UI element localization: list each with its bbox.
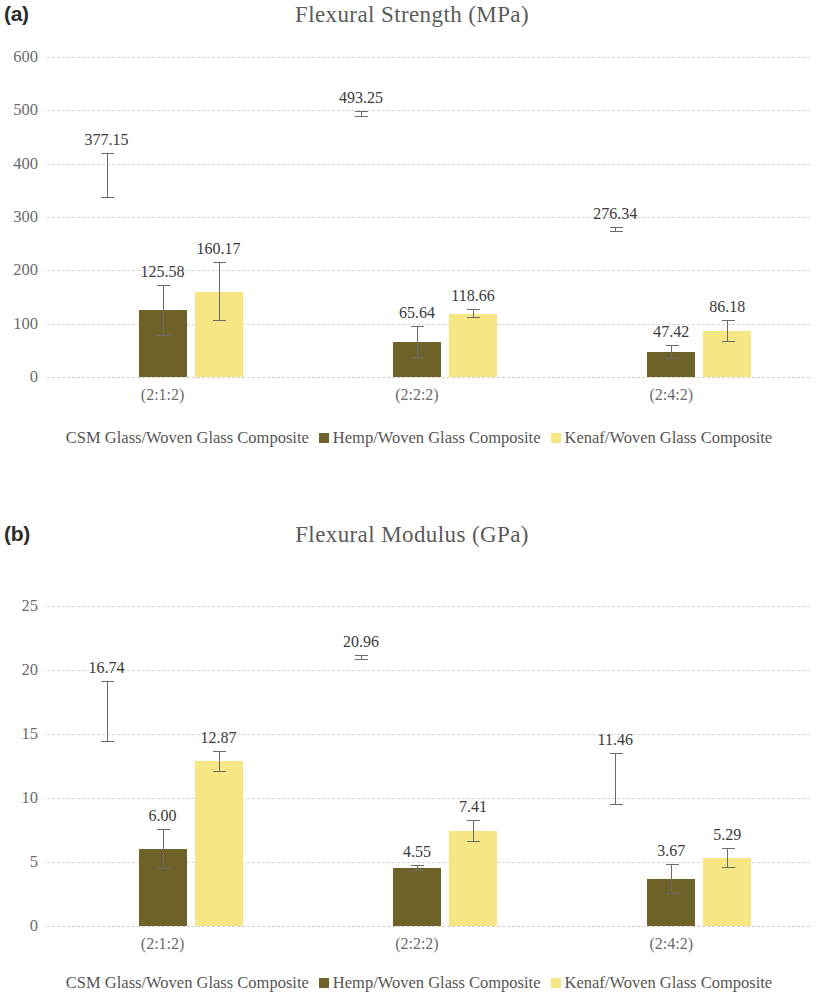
error-bar [615, 753, 616, 805]
legend-a: CSM Glass/Woven Glass CompositeHemp/Wove… [0, 428, 824, 448]
legend-label: CSM Glass/Woven Glass Composite [66, 428, 309, 448]
error-bar-cap-top [666, 864, 679, 865]
error-bar [107, 153, 108, 198]
legend-label: Hemp/Woven Glass Composite [333, 428, 541, 448]
y-axis-tick-label: 5 [30, 852, 38, 872]
legend-swatch-icon [319, 433, 329, 443]
legend-label: Hemp/Woven Glass Composite [333, 973, 541, 993]
plot-area-a: 0100200300400500600 377.15125.58160.17(2… [47, 57, 810, 377]
error-bar-cap-top [722, 848, 735, 849]
error-bar-cap-top [213, 751, 226, 752]
error-bar [361, 655, 362, 661]
legend-item: CSM Glass/Woven Glass Composite [49, 973, 312, 993]
error-bar [727, 848, 728, 868]
bar-hemp [393, 868, 441, 926]
error-bar [163, 285, 164, 336]
error-bar [615, 227, 616, 232]
bar-group: 276.3447.4286.18(2:4:2) [556, 57, 810, 377]
error-bar [219, 751, 220, 772]
panel-a-title: Flexural Strength (MPa) [0, 2, 824, 28]
error-bar-cap-bottom [411, 870, 424, 871]
error-bar-cap-top [467, 309, 480, 310]
bar-group: 11.463.675.29(2:4:2) [556, 606, 810, 926]
bar-group: 377.15125.58160.17(2:1:2) [47, 57, 301, 377]
bar-group: 16.746.0012.87(2:1:2) [47, 606, 301, 926]
data-label: 5.29 [713, 826, 741, 844]
data-label: 65.64 [399, 304, 435, 322]
data-label: 125.58 [141, 263, 185, 281]
error-bar-cap-top [355, 111, 368, 112]
gridline [47, 926, 810, 927]
error-bar-cap-bottom [213, 320, 226, 321]
legend-swatch-icon [52, 978, 62, 988]
data-label: 86.18 [709, 298, 745, 316]
error-bar-cap-bottom [666, 893, 679, 894]
x-axis-tick-label: (2:1:2) [141, 935, 185, 953]
y-axis-tick-label: 10 [22, 788, 39, 808]
legend-label: Kenaf/Woven Glass Composite [565, 428, 773, 448]
bar-kenaf [703, 858, 751, 926]
data-label: 16.74 [89, 659, 125, 677]
x-axis-tick-label: (2:2:2) [395, 386, 439, 404]
bar-kenaf [449, 831, 497, 926]
bar-csm [83, 712, 131, 926]
error-bar-cap-bottom [467, 317, 480, 318]
data-label: 3.67 [657, 842, 685, 860]
error-bar-cap-bottom [722, 867, 735, 868]
bar-group: 20.964.557.41(2:2:2) [301, 606, 555, 926]
y-axis-tick-label: 600 [13, 47, 38, 67]
data-label: 12.87 [201, 729, 237, 747]
error-bar-cap-bottom [355, 659, 368, 660]
error-bar-cap-bottom [157, 868, 170, 869]
bar-csm [591, 230, 639, 377]
error-bar-cap-bottom [213, 771, 226, 772]
data-label: 493.25 [339, 89, 383, 107]
error-bar [361, 111, 362, 116]
error-bar-cap-bottom [101, 197, 114, 198]
error-bar-cap-top [355, 655, 368, 656]
x-axis-tick-label: (2:4:2) [649, 935, 693, 953]
legend-swatch-icon [551, 978, 561, 988]
legend-label: Kenaf/Woven Glass Composite [565, 973, 773, 993]
error-bar [107, 681, 108, 742]
y-axis-tick-label: 15 [22, 724, 39, 744]
legend-swatch-icon [551, 433, 561, 443]
data-label: 7.41 [459, 798, 487, 816]
legend-swatch-icon [319, 978, 329, 988]
error-bar-cap-bottom [610, 804, 623, 805]
legend-item: Kenaf/Woven Glass Composite [548, 973, 776, 993]
error-bar [417, 326, 418, 357]
error-bar [671, 345, 672, 359]
bar-csm [83, 176, 131, 377]
y-axis-tick-label: 100 [13, 314, 38, 334]
error-bar-cap-bottom [157, 335, 170, 336]
bar-csm [337, 658, 385, 926]
error-bar-cap-top [101, 153, 114, 154]
error-bar-cap-top [411, 865, 424, 866]
bar-kenaf [449, 314, 497, 377]
error-bar-cap-bottom [411, 357, 424, 358]
error-bar-cap-top [722, 320, 735, 321]
chart-panel-b: (b) Flexural Modulus (GPa) 0510152025 16… [0, 520, 824, 999]
error-bar-cap-top [610, 753, 623, 754]
data-label: 20.96 [343, 633, 379, 651]
bar-group: 493.2565.64118.66(2:2:2) [301, 57, 555, 377]
error-bar-cap-top [666, 345, 679, 346]
error-bar-cap-bottom [610, 231, 623, 232]
legend-label: CSM Glass/Woven Glass Composite [66, 973, 309, 993]
bar-groups-b: 16.746.0012.87(2:1:2)20.964.557.41(2:2:2… [47, 606, 810, 926]
error-bar-cap-bottom [666, 358, 679, 359]
error-bar-cap-top [411, 326, 424, 327]
data-label: 118.66 [451, 287, 494, 305]
error-bar [163, 829, 164, 869]
legend-swatch-icon [52, 433, 62, 443]
bar-groups-a: 377.15125.58160.17(2:1:2)493.2565.64118.… [47, 57, 810, 377]
legend-item: Hemp/Woven Glass Composite [316, 973, 544, 993]
y-axis-tick-label: 0 [30, 367, 38, 387]
plot-area-b: 0510152025 16.746.0012.87(2:1:2)20.964.5… [47, 606, 810, 926]
bar-kenaf [195, 761, 243, 926]
y-axis-tick-label: 20 [22, 660, 39, 680]
x-axis-tick-label: (2:2:2) [395, 935, 439, 953]
error-bar-cap-top [157, 829, 170, 830]
error-bar [473, 309, 474, 318]
